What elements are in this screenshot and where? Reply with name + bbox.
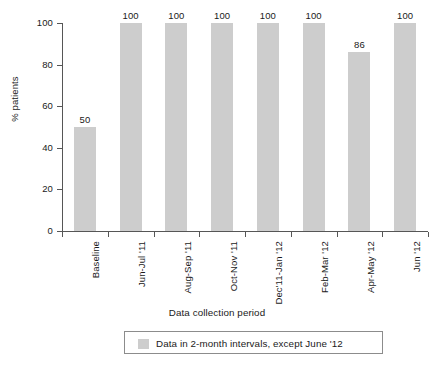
x-tick-1 — [108, 232, 109, 237]
bar-feb-mar-12 — [303, 23, 325, 231]
y-tick-label-20: 20 — [27, 184, 53, 194]
x-tick-2 — [154, 232, 155, 237]
bar-value-oct-nov-11: 100 — [202, 10, 242, 21]
x-tick-7 — [382, 232, 383, 237]
bar-aug-sep-11 — [165, 23, 187, 231]
bar-value-feb-mar-12: 100 — [294, 10, 334, 21]
y-tick-label-40: 40 — [27, 143, 53, 153]
legend-label: Data in 2-month intervals, except June '… — [156, 337, 343, 350]
bar-oct-nov-11 — [211, 23, 233, 231]
bar-value-dec11-jan-12: 100 — [248, 10, 288, 21]
y-tick-100 — [57, 23, 62, 24]
chart-legend: Data in 2-month intervals, except June '… — [124, 331, 383, 354]
x-tick-5 — [291, 232, 292, 237]
bar-value-apr-may-12: 86 — [339, 39, 379, 50]
y-tick-label-0: 0 — [27, 226, 53, 236]
y-tick-60 — [57, 106, 62, 107]
x-axis-title: Data collection period — [0, 307, 434, 319]
bar-chart: % patients 100 80 60 40 20 0 50 100 100 … — [0, 0, 434, 369]
y-tick-label-100: 100 — [27, 18, 53, 28]
y-tick-80 — [57, 65, 62, 66]
bar-jun-jul-11 — [120, 23, 142, 231]
x-tick-6 — [337, 232, 338, 237]
bar-dec11-jan-12 — [257, 23, 279, 231]
y-tick-label-80: 80 — [27, 60, 53, 70]
y-tick-40 — [57, 148, 62, 149]
y-tick-label-60: 60 — [27, 101, 53, 111]
bar-value-aug-sep-11: 100 — [156, 10, 196, 21]
x-tick-4 — [245, 232, 246, 237]
legend-swatch-icon — [138, 339, 149, 349]
y-axis-title: % patients — [8, 59, 22, 139]
x-tick-3 — [199, 232, 200, 237]
y-axis-line — [62, 23, 63, 232]
bar-apr-may-12 — [348, 52, 370, 231]
bar-baseline — [74, 127, 96, 231]
bar-value-jun-12: 100 — [385, 10, 425, 21]
bar-value-jun-jul-11: 100 — [111, 10, 151, 21]
bar-value-baseline: 50 — [65, 114, 105, 125]
bar-jun-12 — [394, 23, 416, 231]
y-tick-20 — [57, 189, 62, 190]
x-tick-8 — [428, 232, 429, 237]
x-tick-0 — [62, 232, 63, 237]
